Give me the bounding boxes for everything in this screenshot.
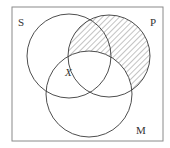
set-m-label: M: [136, 124, 146, 136]
set-s-label: S: [18, 16, 24, 28]
set-p-label: P: [150, 16, 156, 28]
venn-diagram: S P M X: [0, 0, 170, 148]
shaded-region-p-minus-m: [60, 10, 160, 110]
marker-x-label: X: [64, 66, 73, 78]
